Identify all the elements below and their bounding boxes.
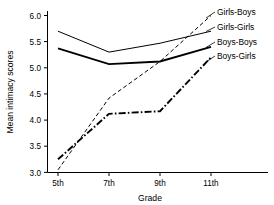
x-tick-label-1: 7th [103,179,115,188]
legend-label-girls-boys: Girls-Boys [217,7,256,17]
series-line-girls-girls [58,31,211,52]
line-chart: 6.0 5.5 5.0 4.5 4.0 3.5 3.0 5th 7th 9th … [0,0,274,205]
y-tick-label-5: 5.5 [30,38,42,47]
legend-label-boys-girls: Boys-Girls [217,51,256,61]
x-tick-label-0: 5th [52,179,64,188]
series-line-girls-boys [58,16,211,170]
x-tick-label-2: 9th [154,179,166,188]
x-axis-ticks [58,173,211,177]
series-line-boys-girls [58,57,211,159]
y-tick-label-2: 4.0 [30,116,42,125]
x-tick-label-3: 11th [203,179,219,188]
y-axis-title: Mean intimacy scores [5,50,15,133]
y-tick-label-6: 6.0 [30,12,42,21]
series-line-boys-boys [58,47,211,64]
x-axis-title: Grade [138,193,162,203]
y-tick-label-4: 5.0 [30,64,42,73]
y-axis-ticks [44,16,48,173]
legend-label-girls-girls: Girls-Girls [217,22,254,32]
leader-line-boys-girls [206,56,215,62]
legend-label-boys-boys: Boys-Boys [217,37,257,47]
leader-line-girls-boys [206,12,215,18]
y-tick-label-1: 3.5 [30,142,42,151]
chart-page: 6.0 5.5 5.0 4.5 4.0 3.5 3.0 5th 7th 9th … [0,0,274,205]
y-tick-label-0: 3.0 [30,169,42,178]
y-tick-label-3: 4.5 [30,90,42,99]
